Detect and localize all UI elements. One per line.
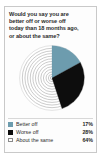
legend-swatch-icon-about-the-same — [8, 138, 13, 143]
legend-value-worse-off: 28% — [82, 129, 93, 136]
pie-chart-card: Would you say you are better off or wors… — [4, 6, 97, 153]
chart-legend: Better off 17% Worse off 28% About the s… — [8, 121, 93, 144]
legend-label-worse-off: Worse off — [16, 129, 38, 136]
chart-title-line-1: Would you say you are — [9, 11, 94, 18]
chart-title-line-4: or about the same? — [9, 33, 94, 40]
chart-title: Would you say you are better off or wors… — [9, 11, 94, 40]
legend-item-about-the-same[interactable]: About the same 64% — [8, 137, 93, 144]
legend-swatch-icon-worse-off — [8, 130, 13, 135]
pie-chart-plot-area — [5, 45, 96, 115]
chart-title-line-3: today than 18 months ago, — [9, 25, 94, 32]
legend-swatch-icon-better-off — [8, 122, 13, 127]
legend-label-better-off: Better off — [16, 121, 37, 128]
legend-value-better-off: 17% — [82, 121, 93, 128]
legend-value-about-the-same: 64% — [82, 137, 93, 144]
legend-item-worse-off[interactable]: Worse off 28% — [8, 129, 93, 136]
legend-label-about-the-same: About the same — [16, 137, 53, 144]
legend-item-better-off[interactable]: Better off 17% — [8, 121, 93, 128]
pie-chart-svg — [19, 45, 85, 111]
chart-title-line-2: better off or worse off — [9, 18, 94, 25]
legend-divider — [8, 118, 93, 119]
